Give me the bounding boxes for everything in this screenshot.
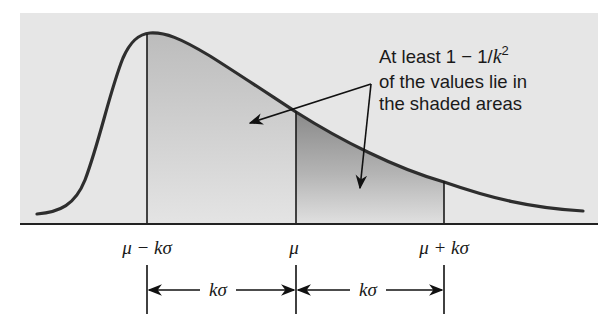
label-mu-minus-ksigma: μ − kσ: [121, 237, 172, 258]
annotation-line-1: At least 1 − 1/k2: [379, 43, 509, 67]
annotation-line-3: the shaded areas: [379, 93, 522, 114]
chebyshev-diagram: At least 1 − 1/k2 of the values lie in t…: [0, 0, 611, 333]
annotation-line-2: of the values lie in: [379, 71, 527, 92]
interval-label-right: kσ: [359, 279, 377, 300]
interval-label-left: kσ: [209, 279, 227, 300]
label-mu-plus-ksigma: μ + kσ: [418, 237, 469, 258]
label-mu: μ: [288, 237, 299, 258]
